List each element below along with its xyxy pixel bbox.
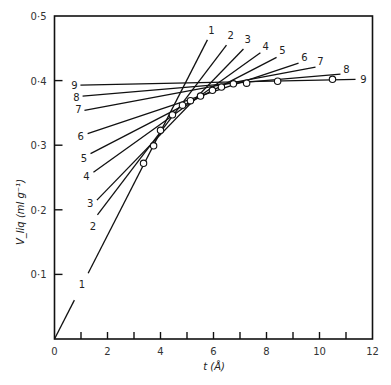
data-point: [187, 97, 193, 103]
line-label-start: 9: [71, 80, 77, 91]
line-label-end: 3: [244, 34, 250, 45]
line-label-end: 1: [208, 25, 214, 36]
line-label-start: 6: [77, 131, 83, 142]
line-label-end: 2: [227, 30, 233, 41]
y-tick-label: 0·4: [31, 76, 47, 87]
line-label-start: 8: [73, 92, 79, 103]
data-point: [218, 84, 224, 90]
x-tick-label: 0: [51, 346, 57, 357]
line-label-end: 8: [343, 64, 349, 75]
x-tick-label: 6: [210, 346, 216, 357]
line-label-start: 5: [81, 153, 87, 164]
chart: 024681012 0·10·20·30·40·5 11223344556677…: [0, 0, 391, 385]
tangent-lines: 112233445566778899: [55, 25, 367, 339]
data-point: [157, 127, 163, 133]
line-label-end: 9: [360, 74, 366, 85]
data-point: [329, 76, 335, 82]
x-axis-label: t (Å): [203, 360, 225, 372]
line-segment: [84, 67, 315, 110]
line-label-start: 7: [75, 104, 81, 115]
tangent-line-8: 88: [73, 64, 349, 103]
data-points: [140, 76, 335, 166]
line-segment: [88, 40, 207, 273]
x-tick-label: 2: [104, 346, 110, 357]
x-tick-label: 8: [263, 346, 269, 357]
x-axis: 024681012: [51, 332, 379, 357]
y-axis-label: V_liq (ml g⁻¹): [15, 179, 27, 245]
x-tick-label: 10: [313, 346, 326, 357]
data-point: [197, 93, 203, 99]
line-label-end: 4: [262, 41, 268, 52]
line-label-start: 3: [87, 198, 93, 209]
y-tick-label: 0·5: [31, 11, 47, 22]
tangent-line-6: 66: [77, 52, 307, 142]
data-point: [209, 87, 215, 93]
line-label-start: 2: [90, 221, 96, 232]
tangent-line-1: 11: [55, 25, 215, 339]
x-tick-label: 12: [366, 346, 379, 357]
y-tick-label: 0·3: [31, 140, 47, 151]
line-label-start: 1: [79, 279, 85, 290]
data-point: [230, 81, 236, 87]
data-point: [169, 112, 175, 118]
line-segment: [55, 300, 75, 339]
line-label-end: 5: [279, 45, 285, 56]
y-axis: 0·10·20·30·40·5: [31, 11, 63, 280]
line-segment: [97, 49, 244, 200]
data-point: [243, 80, 249, 86]
x-tick-label: 4: [157, 346, 163, 357]
plot-border: [55, 16, 373, 339]
data-point: [140, 160, 146, 166]
plot-frame: [55, 16, 373, 339]
data-point: [179, 102, 185, 108]
line-label-end: 7: [317, 56, 323, 67]
line-label-end: 6: [301, 52, 307, 63]
data-point: [274, 78, 280, 84]
data-point: [150, 143, 156, 149]
line-label-start: 4: [83, 171, 89, 182]
y-tick-label: 0·2: [31, 205, 47, 216]
y-tick-label: 0·1: [31, 269, 47, 280]
line-segment: [93, 53, 260, 173]
